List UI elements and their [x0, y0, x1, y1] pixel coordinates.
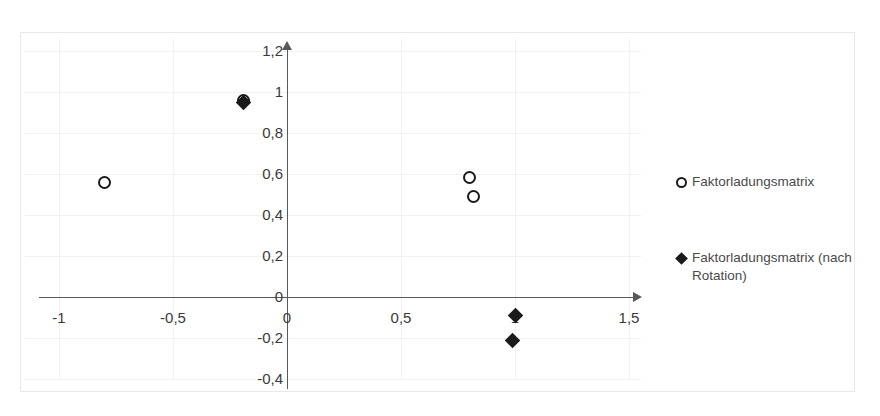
gridline-horizontal [25, 51, 641, 52]
y-axis-tick-label: -0,2 [223, 330, 283, 345]
plot-area: 1,210,80,60,40,20-0,2-0,4 -1-0,500,511,5 [21, 33, 661, 393]
gridline-horizontal [25, 379, 641, 380]
gridline-vertical [401, 39, 402, 379]
y-axis-tick-label: 0 [223, 289, 283, 304]
x-axis-tick-label: 1,5 [599, 310, 659, 325]
data-point [505, 332, 521, 348]
gridline-vertical [629, 39, 630, 379]
y-axis-tick-label: -0,4 [223, 371, 283, 386]
gridline-vertical [173, 39, 174, 379]
gridline-horizontal [25, 338, 641, 339]
x-axis-tick-label: 0 [257, 310, 317, 325]
x-axis-tick-label: 0,5 [371, 310, 431, 325]
gridline-vertical [515, 39, 516, 379]
y-axis-line [287, 49, 288, 389]
y-axis-tick-label: 1 [223, 84, 283, 99]
legend-item-label: Faktorladungsmatrix [692, 173, 814, 191]
y-axis-arrow-icon [282, 41, 292, 50]
y-axis-tick-label: 0,4 [223, 207, 283, 222]
gridline-horizontal [25, 174, 641, 175]
x-axis-tick-label: -0,5 [143, 310, 203, 325]
gridline-horizontal [25, 215, 641, 216]
gridline-horizontal [25, 92, 641, 93]
open-circle-icon [676, 177, 687, 188]
legend-item[interactable]: Faktorladungsmatrix (nach Rotation) [676, 249, 876, 285]
gridline-horizontal [25, 256, 641, 257]
y-axis-tick-label: 0,8 [223, 125, 283, 140]
data-point [463, 171, 476, 184]
data-point [98, 176, 111, 189]
x-axis-tick-label: -1 [29, 310, 89, 325]
x-axis-arrow-icon [633, 292, 642, 302]
legend-item-label: Faktorladungsmatrix (nach Rotation) [692, 249, 876, 285]
y-axis-tick-label: 0,2 [223, 248, 283, 263]
data-point [467, 190, 480, 203]
legend-item[interactable]: Faktorladungsmatrix [676, 173, 876, 191]
chart-legend: FaktorladungsmatrixFaktorladungsmatrix (… [676, 173, 876, 344]
gridline-horizontal [25, 133, 641, 134]
y-axis-tick-label: 1,2 [223, 43, 283, 58]
x-axis-line [39, 297, 639, 298]
gridline-vertical [59, 39, 60, 379]
chart-frame: 1,210,80,60,40,20-0,2-0,4 -1-0,500,511,5… [20, 32, 855, 392]
filled-diamond-icon [675, 252, 688, 265]
y-axis-tick-label: 0,6 [223, 166, 283, 181]
